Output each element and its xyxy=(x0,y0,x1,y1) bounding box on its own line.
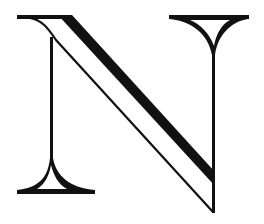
thick-diagonal-stroke xyxy=(58,15,215,186)
letter-n-glyph xyxy=(0,0,264,224)
right-stem xyxy=(212,45,215,213)
